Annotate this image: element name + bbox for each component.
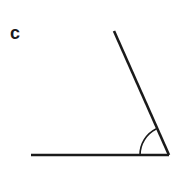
angle-arc bbox=[140, 129, 156, 155]
geometry-figure: c bbox=[0, 0, 184, 173]
angle-diagram-svg bbox=[0, 0, 184, 173]
diagonal-ray bbox=[114, 31, 169, 155]
